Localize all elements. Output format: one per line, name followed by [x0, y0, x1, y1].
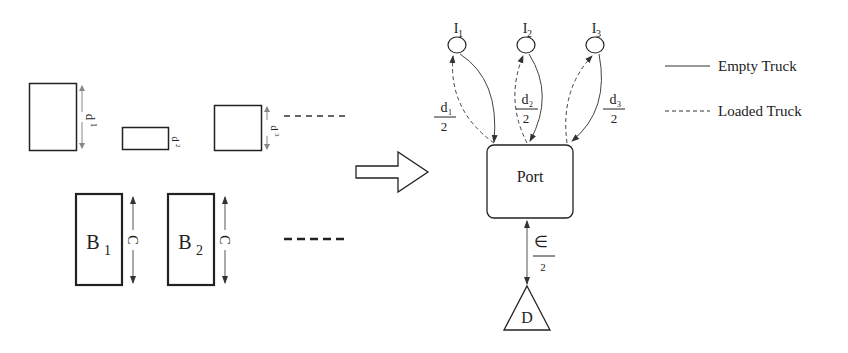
svg-text:1: 1 [448, 108, 452, 117]
arc-fraction-2: d 2 2 [516, 92, 538, 126]
depot-frac-den: 2 [540, 261, 546, 273]
bin-capacity-label-1: C [125, 235, 140, 244]
bin-box-2: B 2 C [168, 194, 232, 285]
island-sub-1: 1 [458, 28, 463, 39]
svg-text:d: d [522, 92, 529, 107]
port-node: Port [487, 145, 573, 218]
arc-fraction-1: d 1 2 [434, 100, 456, 134]
item-height-sub-3: 3 [273, 133, 281, 137]
island-sub-3: 3 [596, 28, 601, 39]
legend-item-loaded-truck: Loaded Truck [665, 103, 802, 119]
item-height-label-3: d [269, 125, 281, 131]
port-label: Port [517, 168, 544, 185]
diagram-canvas: d 1 d 2 d 3 B 1 C B 2 [0, 0, 848, 353]
legend-label-loaded: Loaded Truck [718, 103, 802, 119]
item-height-sub-1: 1 [89, 123, 98, 127]
arc-fraction-3: d 3 2 [603, 92, 625, 126]
item-height-label-1: d [83, 114, 98, 121]
svg-text:d: d [610, 92, 617, 107]
item-height-label-2: d [170, 136, 182, 142]
depot-link: ∈ 2 [527, 221, 555, 284]
legend: Empty Truck Loaded Truck [665, 58, 802, 119]
svg-text:3: 3 [617, 100, 621, 109]
bin-label-2: B [178, 231, 191, 253]
depot-node: D [504, 286, 550, 330]
bin-sub-2: 2 [196, 243, 203, 258]
svg-text:2: 2 [529, 100, 533, 109]
depot-label: D [521, 309, 533, 326]
svg-text:d: d [441, 100, 448, 115]
item-box-2: d 2 [123, 128, 183, 150]
depot-frac-num: ∈ [534, 233, 548, 250]
bin-label-1: B [86, 231, 99, 253]
island-1: I 1 [448, 21, 466, 53]
bin-box-1: B 1 C [76, 194, 140, 285]
transform-arrow-icon [356, 152, 428, 192]
svg-text:2: 2 [611, 111, 618, 126]
island-2: I 2 [517, 21, 535, 53]
bin-capacity-label-2: C [217, 235, 232, 244]
svg-text:2: 2 [441, 119, 448, 134]
item-box-3: d 3 [215, 106, 282, 151]
island-3: I 3 [586, 21, 604, 53]
bin-sub-1: 1 [104, 243, 111, 258]
item-height-sub-2: 2 [174, 144, 182, 148]
legend-item-empty-truck: Empty Truck [665, 58, 797, 74]
svg-text:2: 2 [523, 111, 530, 126]
legend-label-empty: Empty Truck [718, 58, 797, 74]
island-sub-2: 2 [527, 28, 532, 39]
item-box-1: d 1 [30, 84, 99, 151]
